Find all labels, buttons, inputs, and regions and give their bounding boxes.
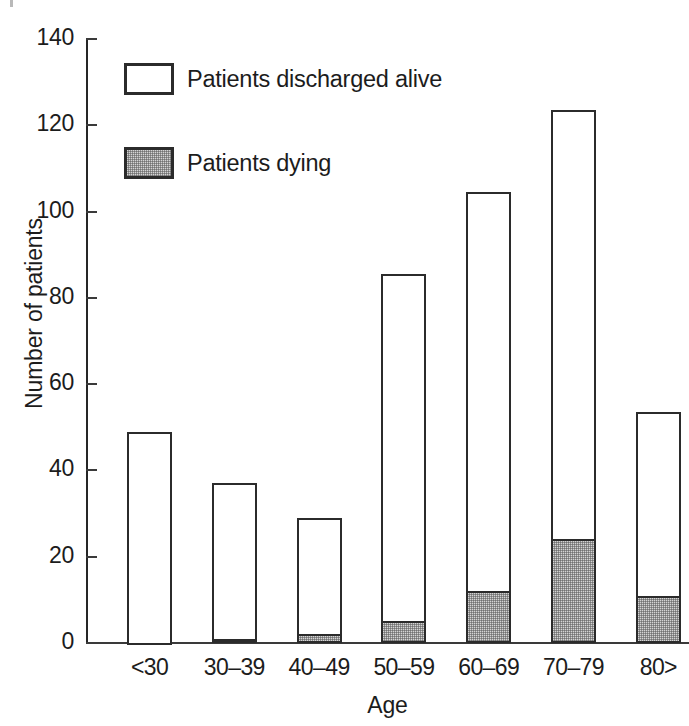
legend-entry-dying: Patients dying [124,147,331,179]
bar-segment-dying [381,621,426,643]
y-axis-tick [86,469,97,471]
y-axis-tick [86,297,97,299]
y-axis-tick [86,556,97,558]
bar-segment-discharged-alive [636,412,681,597]
y-axis-tick [86,383,97,385]
bar-group [466,192,511,643]
y-axis-tick-label: 40 [30,457,74,480]
y-axis-tick-label: 60 [30,371,74,394]
legend-swatch-discharged-alive [124,63,174,95]
bar-segment-discharged-alive [212,483,257,640]
x-axis-title: Age [86,692,689,719]
y-axis-tick-label: 120 [30,112,74,135]
bar-segment-dying [212,639,257,643]
bar-segment-discharged-alive [381,274,426,623]
bar-group [636,412,681,643]
bar-group [127,432,172,643]
y-axis-tick-label: 80 [30,285,74,308]
bar-segment-dying [636,596,681,643]
bar-segment-dying [297,634,342,643]
y-axis-tick-label: 20 [30,544,74,567]
bar-segment-discharged-alive [466,192,511,593]
y-axis-line [86,38,88,644]
bar-segment-discharged-alive [551,110,596,541]
y-axis-tick-label: 140 [30,26,74,49]
bar-segment-dying [466,591,511,643]
y-axis-tick-label: 100 [30,199,74,222]
bar-group [551,110,596,643]
legend-entry-discharged-alive: Patients discharged alive [124,63,442,95]
y-axis-tick-label: 0 [30,630,74,653]
bar-segment-dying [551,539,596,643]
legend-label-discharged-alive: Patients discharged alive [187,67,442,91]
bar-group [381,274,426,643]
y-axis-tick [86,211,97,213]
bar-segment-discharged-alive [127,432,172,645]
y-axis-tick [86,124,97,126]
bar-group [212,483,257,643]
legend-label-dying: Patients dying [187,151,331,175]
bar-group [297,518,342,643]
x-axis-tick-label: 80> [598,654,689,680]
bar-segment-discharged-alive [297,518,342,636]
stacked-bar-chart: Number of patients 020406080100120140 Ag… [0,0,689,726]
y-axis-tick [86,38,97,40]
legend-swatch-dying [124,147,174,179]
